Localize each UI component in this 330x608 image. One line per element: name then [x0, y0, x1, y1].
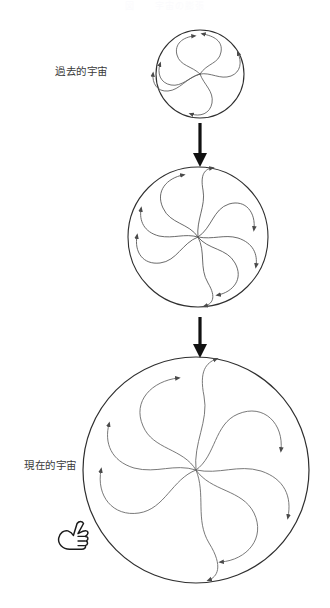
universe-expansion-illustration: [0, 0, 330, 608]
spiral-arms-intermediate: [136, 168, 256, 306]
hand-pointer-cursor[interactable]: [59, 521, 88, 549]
label-present-universe: 現在的宇宙: [24, 457, 77, 472]
spiral-arms-present: [100, 359, 289, 580]
page-faint-title: 図 宇宙の膨張: [0, 0, 330, 12]
spiral-arms-past-extra: [153, 74, 200, 91]
circle-present-universe: [83, 357, 309, 583]
circle-past-universe: [156, 30, 244, 118]
label-past-universe: 過去的宇宙: [55, 63, 108, 78]
circle-intermediate-universe: [128, 167, 268, 307]
stage-present-universe: [83, 357, 309, 583]
diagram-canvas: 図 宇宙の膨張: [0, 0, 330, 608]
spiral-arms-past: [159, 34, 240, 115]
arrow-stage1-to-stage2: [193, 123, 207, 167]
stage-past-universe: [153, 30, 244, 118]
stage-intermediate-universe: [128, 167, 268, 307]
arrow-stage2-to-stage3: [193, 317, 207, 358]
